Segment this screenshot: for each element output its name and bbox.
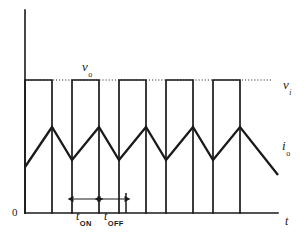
label-t-on: tON xyxy=(76,207,91,226)
vo-pulse-5 xyxy=(213,80,240,213)
label-io-subscript: o xyxy=(286,149,290,158)
label-t-off: tOFF xyxy=(104,207,123,226)
vo-pulse-train xyxy=(25,80,240,213)
label-output-voltage: vo xyxy=(82,58,92,77)
label-t-axis-symbol: t xyxy=(285,214,288,228)
vo-pulse-4 xyxy=(166,80,193,213)
label-vi-subscript: i xyxy=(289,88,291,97)
waveform-figure: vo vi io tON tOFF t 0 xyxy=(0,0,306,243)
waveform-canvas xyxy=(0,0,306,243)
label-vo-subscript: o xyxy=(88,70,92,79)
vo-pulse-2 xyxy=(72,80,99,213)
label-ton-subscript: ON xyxy=(80,219,92,228)
label-vo-symbol: v xyxy=(82,59,88,74)
label-input-voltage: vi xyxy=(283,76,291,95)
label-toff-symbol: t xyxy=(104,209,107,223)
label-toff-subscript: OFF xyxy=(108,219,124,228)
label-output-current: io xyxy=(282,137,290,156)
label-ton-symbol: t xyxy=(76,209,79,223)
label-origin: 0 xyxy=(12,207,18,218)
vo-pulse-3 xyxy=(119,80,146,213)
label-vi-symbol: v xyxy=(283,77,289,92)
label-time-axis: t xyxy=(285,212,288,228)
